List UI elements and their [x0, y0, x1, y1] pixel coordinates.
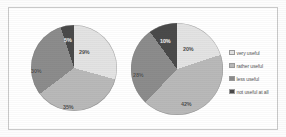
plot-area: 29% 35% 30% 5% 20% 42% 28% 10% very usef…: [9, 8, 277, 129]
legend-label-very-useful: very useful: [237, 50, 260, 56]
legend-swatch-not-useful-at-all: [229, 89, 235, 95]
pie-right-label-very-useful: 20%: [183, 46, 194, 52]
legend-swatch-rather-useful: [229, 63, 235, 69]
legend-label-not-useful-at-all: not useful at all: [237, 89, 269, 95]
legend-swatch-less-useful: [229, 76, 235, 82]
legend-label-rather-useful: rather useful: [237, 63, 264, 69]
pie-left-label-rather-useful: 35%: [63, 104, 74, 110]
figure-container: 29% 35% 30% 5% 20% 42% 28% 10% very usef…: [0, 0, 286, 137]
pie-right-label-rather-useful: 42%: [181, 101, 192, 107]
legend-swatch-very-useful: [229, 50, 235, 56]
legend-label-less-useful: less useful: [237, 76, 260, 82]
pie-left-label-very-useful: 29%: [79, 49, 90, 55]
legend-item-rather-useful: rather useful: [229, 59, 285, 72]
pie-right-label-less-useful: 28%: [133, 72, 144, 78]
legend: very useful rather useful less useful no…: [229, 46, 285, 98]
pie-left-label-less-useful: 30%: [31, 68, 42, 74]
pie-left-label-not-useful-at-all: 5%: [64, 37, 72, 43]
legend-item-very-useful: very useful: [229, 46, 285, 59]
pie-chart-right: [131, 23, 223, 115]
pie-right-label-not-useful-at-all: 10%: [160, 38, 171, 44]
legend-item-less-useful: less useful: [229, 72, 285, 85]
figure-frame: 29% 35% 30% 5% 20% 42% 28% 10% very usef…: [8, 7, 278, 130]
pie-chart-left: [31, 25, 117, 111]
legend-item-not-useful-at-all: not useful at all: [229, 85, 285, 98]
